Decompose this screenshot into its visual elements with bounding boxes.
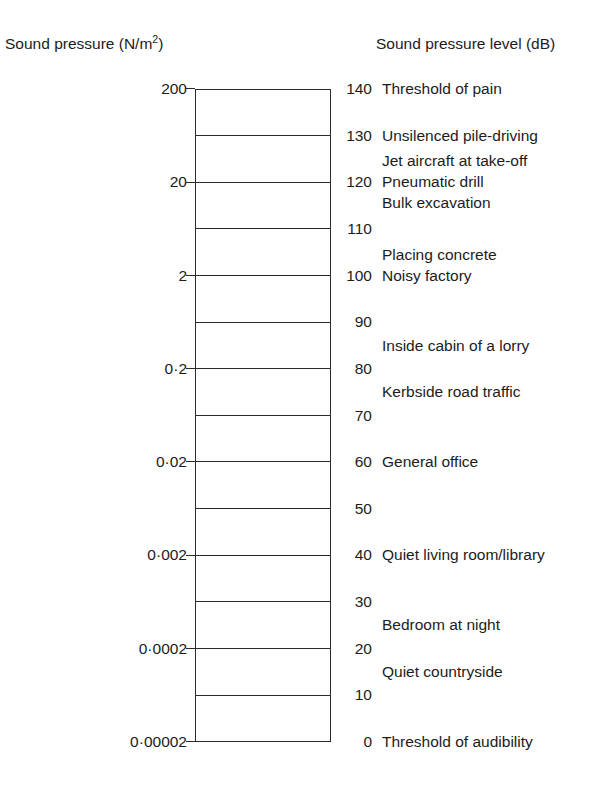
- grid-line-90db: [195, 322, 331, 323]
- db-label-140: 140: [338, 81, 372, 97]
- source-label: Unsilenced pile-driving: [382, 128, 538, 144]
- db-label-100: 100: [338, 268, 372, 284]
- db-label-30: 30: [338, 594, 372, 610]
- grid-line-100db: [195, 275, 331, 276]
- db-label-60: 60: [338, 454, 372, 470]
- db-label-110: 110: [338, 221, 372, 237]
- tick-0db: [186, 741, 195, 742]
- tick-60db: [186, 461, 195, 462]
- source-label: Placing concrete: [382, 247, 497, 263]
- grid-line-110db: [195, 228, 331, 229]
- source-label: Quiet countryside: [382, 664, 503, 680]
- grid-line-30db: [195, 601, 331, 602]
- pressure-label-20db: 0·0002: [139, 641, 187, 657]
- source-label: Quiet living room/library: [382, 547, 545, 563]
- tick-20db: [186, 648, 195, 649]
- grid-line-50db: [195, 508, 331, 509]
- db-label-80: 80: [338, 361, 372, 377]
- pressure-label-40db: 0·002: [147, 547, 187, 563]
- pressure-label-100db: 2: [178, 268, 187, 284]
- db-label-20: 20: [338, 641, 372, 657]
- grid-line-20db: [195, 648, 331, 649]
- pressure-label-60db: 0·02: [156, 454, 187, 470]
- source-label: Noisy factory: [382, 268, 472, 284]
- sound-level-figure: Sound pressure (N/m2) Sound pressure lev…: [0, 0, 609, 791]
- grid-line-130db: [195, 135, 331, 136]
- tick-40db: [186, 555, 195, 556]
- grid-line-70db: [195, 415, 331, 416]
- source-label: Bulk excavation: [382, 195, 491, 211]
- source-label: Kerbside road traffic: [382, 384, 520, 400]
- source-label: Threshold of pain: [382, 81, 502, 97]
- grid-line-40db: [195, 555, 331, 556]
- pressure-label-120db: 20: [170, 174, 187, 190]
- pressure-label-80db: 0·2: [165, 361, 187, 377]
- source-label: Bedroom at night: [382, 617, 500, 633]
- db-label-90: 90: [338, 314, 372, 330]
- grid-line-120db: [195, 182, 331, 183]
- tick-120db: [186, 182, 195, 183]
- grid-line-10db: [195, 695, 331, 696]
- pressure-label-140db: 200: [161, 81, 187, 97]
- db-label-70: 70: [338, 408, 372, 424]
- column-header-sound-pressure-tail: ): [158, 35, 163, 52]
- column-header-sound-pressure: Sound pressure (N/m2): [5, 36, 163, 52]
- column-header-sound-pressure-text: Sound pressure (N/m: [5, 35, 152, 52]
- column-header-sound-pressure-level: Sound pressure level (dB): [376, 36, 555, 52]
- tick-80db: [186, 368, 195, 369]
- grid-line-80db: [195, 368, 331, 369]
- tick-100db: [186, 275, 195, 276]
- db-label-10: 10: [338, 687, 372, 703]
- tick-140db: [186, 88, 195, 89]
- db-label-40: 40: [338, 547, 372, 563]
- source-label: General office: [382, 454, 478, 470]
- grid-line-60db: [195, 461, 331, 462]
- source-label: Pneumatic drill: [382, 174, 484, 190]
- db-label-50: 50: [338, 501, 372, 517]
- source-label: Threshold of audibility: [382, 734, 533, 750]
- db-label-130: 130: [338, 128, 372, 144]
- pressure-label-0db: 0·00002: [130, 734, 187, 750]
- source-label: Jet aircraft at take-off: [382, 153, 527, 169]
- db-label-120: 120: [338, 174, 372, 190]
- source-label: Inside cabin of a lorry: [382, 338, 529, 354]
- db-label-0: 0: [338, 734, 372, 750]
